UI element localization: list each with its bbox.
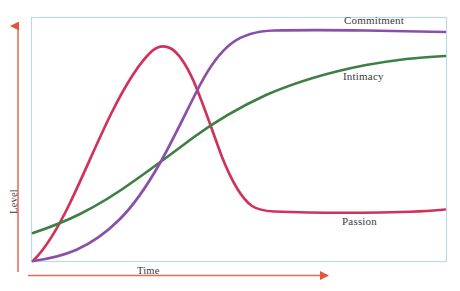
y-axis-label: Level (8, 180, 19, 224)
commitment-series-label: Commitment (344, 14, 404, 26)
intimacy-series-label: Intimacy (343, 70, 384, 82)
chart-canvas (0, 0, 460, 291)
plot-area-border (32, 18, 447, 262)
x-axis-label: Time (137, 265, 160, 276)
triangular-love-chart: Commitment Intimacy Passion Time Level (0, 0, 460, 291)
passion-series-label: Passion (342, 215, 377, 227)
